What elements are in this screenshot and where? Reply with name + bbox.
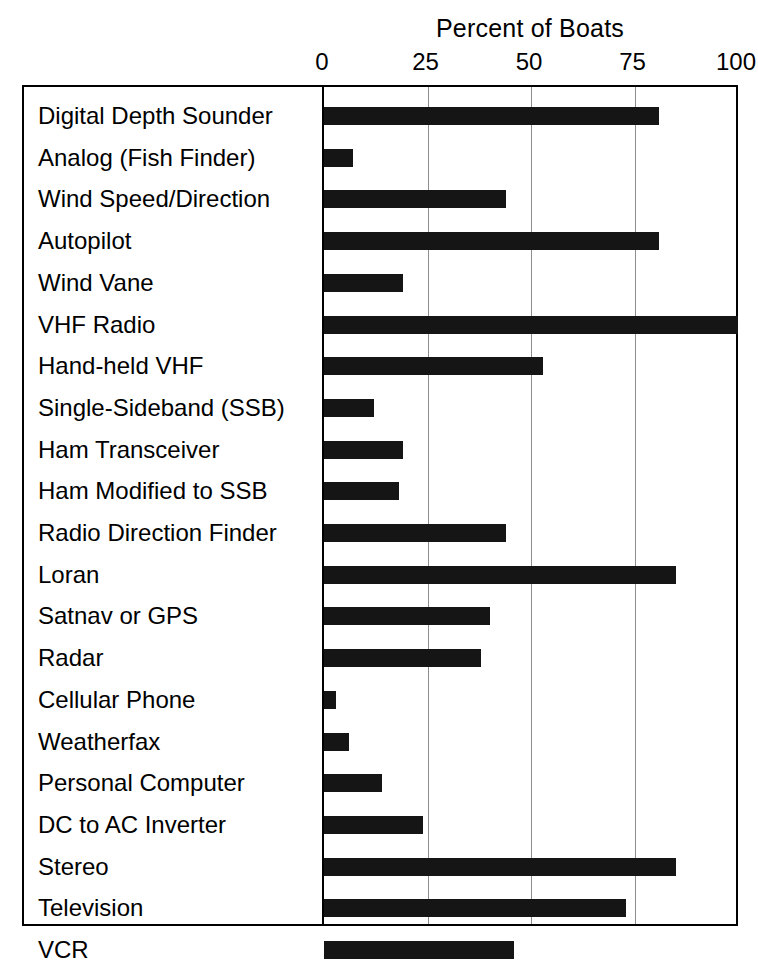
category-label: Cellular Phone bbox=[38, 679, 195, 721]
bar bbox=[324, 941, 514, 959]
x-tick-label-75: 75 bbox=[619, 48, 646, 76]
bar bbox=[324, 149, 353, 167]
bar-track bbox=[324, 137, 736, 179]
category-label: Digital Depth Sounder bbox=[38, 95, 273, 137]
chart-row: Television bbox=[24, 887, 736, 929]
bar-track bbox=[324, 429, 736, 471]
bar-track bbox=[324, 679, 736, 721]
bar-track bbox=[324, 804, 736, 846]
x-tick-label-25: 25 bbox=[412, 48, 439, 76]
bar-track bbox=[324, 95, 736, 137]
chart-row: Ham Modified to SSB bbox=[24, 470, 736, 512]
bar bbox=[324, 357, 543, 375]
category-label: Analog (Fish Finder) bbox=[38, 137, 255, 179]
chart-row: Analog (Fish Finder) bbox=[24, 137, 736, 179]
bar-rows: Digital Depth SounderAnalog (Fish Finder… bbox=[24, 87, 736, 924]
bar-track bbox=[324, 762, 736, 804]
chart-row: Weatherfax bbox=[24, 721, 736, 763]
category-label: DC to AC Inverter bbox=[38, 804, 226, 846]
category-label: Wind Speed/Direction bbox=[38, 178, 270, 220]
chart-row: Wind Vane bbox=[24, 262, 736, 304]
chart-row: Satnav or GPS bbox=[24, 595, 736, 637]
category-label: Personal Computer bbox=[38, 762, 245, 804]
x-tick-label-100: 100 bbox=[716, 48, 756, 76]
bar bbox=[324, 774, 382, 792]
bar-track bbox=[324, 178, 736, 220]
chart-row: Loran bbox=[24, 554, 736, 596]
chart-row: Autopilot bbox=[24, 220, 736, 262]
bar bbox=[324, 816, 423, 834]
bar-track bbox=[324, 387, 736, 429]
chart-row: Radar bbox=[24, 637, 736, 679]
bar-track bbox=[324, 929, 736, 963]
bar bbox=[324, 733, 349, 751]
bar bbox=[324, 107, 659, 125]
chart-row: Personal Computer bbox=[24, 762, 736, 804]
chart-row: Digital Depth Sounder bbox=[24, 95, 736, 137]
category-label: VCR bbox=[38, 929, 89, 963]
bar bbox=[324, 691, 336, 709]
bar bbox=[324, 441, 403, 459]
chart-row: Ham Transceiver bbox=[24, 429, 736, 471]
bar bbox=[324, 316, 738, 334]
bar-track bbox=[324, 470, 736, 512]
category-label: Hand-held VHF bbox=[38, 345, 203, 387]
category-label: Single-Sideband (SSB) bbox=[38, 387, 285, 429]
bar-track bbox=[324, 887, 736, 929]
bar bbox=[324, 607, 490, 625]
bar bbox=[324, 566, 676, 584]
category-label: Radar bbox=[38, 637, 103, 679]
x-axis-tick-labels: 0255075100 bbox=[0, 48, 758, 78]
chart-row: DC to AC Inverter bbox=[24, 804, 736, 846]
chart-row: VCR bbox=[24, 929, 736, 963]
chart-row: Radio Direction Finder bbox=[24, 512, 736, 554]
category-label: Autopilot bbox=[38, 220, 131, 262]
plot-frame: Digital Depth SounderAnalog (Fish Finder… bbox=[22, 85, 738, 926]
bar bbox=[324, 858, 676, 876]
category-label: Ham Modified to SSB bbox=[38, 470, 267, 512]
category-label: Weatherfax bbox=[38, 721, 160, 763]
bar-track bbox=[324, 220, 736, 262]
category-label: Television bbox=[38, 887, 143, 929]
x-tick-label-50: 50 bbox=[516, 48, 543, 76]
category-label: Radio Direction Finder bbox=[38, 512, 277, 554]
bar-track bbox=[324, 304, 736, 346]
bar-track bbox=[324, 262, 736, 304]
chart-row: Wind Speed/Direction bbox=[24, 178, 736, 220]
bar bbox=[324, 232, 659, 250]
category-label: Satnav or GPS bbox=[38, 595, 198, 637]
bar bbox=[324, 399, 374, 417]
bar-track bbox=[324, 345, 736, 387]
bar bbox=[324, 482, 399, 500]
bar-track bbox=[324, 512, 736, 554]
bar-track bbox=[324, 721, 736, 763]
category-label: Wind Vane bbox=[38, 262, 154, 304]
bar bbox=[324, 899, 626, 917]
chart-row: Stereo bbox=[24, 846, 736, 888]
chart-row: Cellular Phone bbox=[24, 679, 736, 721]
bar bbox=[324, 649, 481, 667]
chart-row: Hand-held VHF bbox=[24, 345, 736, 387]
category-label: Stereo bbox=[38, 846, 109, 888]
bar-track bbox=[324, 846, 736, 888]
bar bbox=[324, 274, 403, 292]
bar bbox=[324, 524, 506, 542]
chart-title: Percent of Boats bbox=[322, 14, 738, 42]
bar-track bbox=[324, 595, 736, 637]
chart-row: Single-Sideband (SSB) bbox=[24, 387, 736, 429]
bar-track bbox=[324, 637, 736, 679]
category-label: Loran bbox=[38, 554, 99, 596]
bar bbox=[324, 190, 506, 208]
category-label: Ham Transceiver bbox=[38, 429, 219, 471]
x-tick-label-0: 0 bbox=[315, 48, 328, 76]
chart-row: VHF Radio bbox=[24, 304, 736, 346]
bar-track bbox=[324, 554, 736, 596]
category-label: VHF Radio bbox=[38, 304, 155, 346]
